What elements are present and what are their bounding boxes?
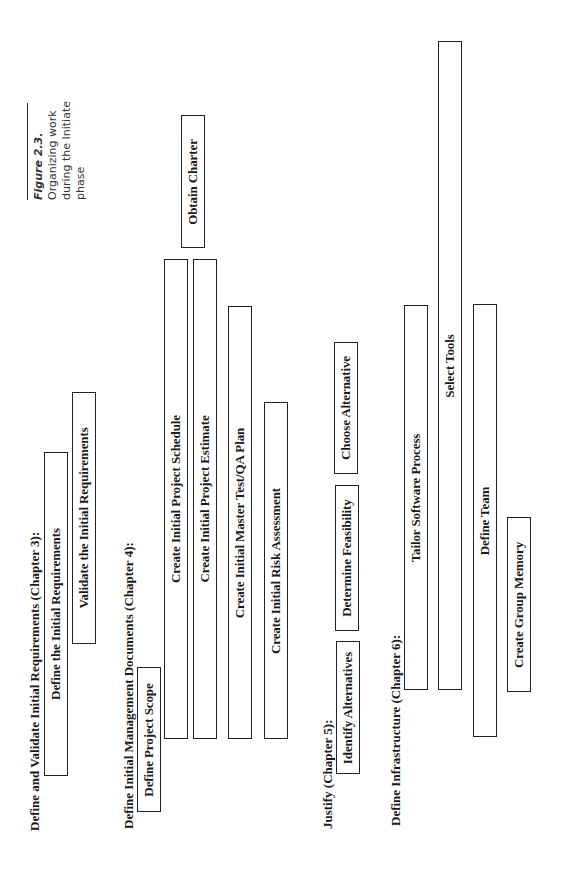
task-label: Define the Initial Requirements <box>48 528 64 700</box>
task-label: Tailor Software Process <box>408 433 424 562</box>
task-label: Create Group Memory <box>511 541 527 667</box>
task-label: Choose Alternative <box>338 356 354 460</box>
task-label: Define Team <box>477 486 493 555</box>
task-identify-alternatives: Identify Alternatives <box>336 641 360 774</box>
task-label: Identify Alternatives <box>340 651 356 763</box>
task-label: Create Initial Risk Assessment <box>268 487 284 653</box>
task-define-initial-requirements: Define the Initial Requirements <box>44 452 68 776</box>
task-choose-alternative: Choose Alternative <box>334 342 358 474</box>
caption-line-1: Organizing work <box>46 110 59 200</box>
task-validate-initial-requirements: Validate the Initial Requirements <box>72 392 96 644</box>
caption-line-2: during the Initiate <box>60 101 73 200</box>
task-label: Validate the Initial Requirements <box>76 427 92 608</box>
task-determine-feasibility: Determine Feasibility <box>335 485 359 631</box>
task-define-team: Define Team <box>473 304 497 737</box>
figure-label: Figure 2.3. <box>32 133 45 200</box>
task-create-initial-project-estimate: Create Initial Project Estimate <box>193 259 217 739</box>
task-create-initial-risk-assessment: Create Initial Risk Assessment <box>264 402 288 739</box>
caption-rule <box>27 103 28 200</box>
caption-line-3: phase <box>74 167 87 200</box>
task-create-initial-master-test-qa-plan: Create Initial Master Test/QA Plan <box>228 306 252 739</box>
task-define-project-scope: Define Project Scope <box>137 667 161 812</box>
task-create-initial-project-schedule: Create Initial Project Schedule <box>164 259 188 739</box>
task-select-tools: Select Tools <box>438 41 462 690</box>
task-create-group-memory: Create Group Memory <box>507 517 531 692</box>
task-label: Create Initial Project Schedule <box>168 415 184 583</box>
task-label: Obtain Charter <box>185 139 201 225</box>
task-obtain-charter: Obtain Charter <box>181 115 205 248</box>
task-label: Select Tools <box>442 334 458 397</box>
group-heading-management-docs: Define Initial Management Documents (Cha… <box>121 542 137 829</box>
group-heading-justify: Justify (Chapter 5): <box>320 719 336 829</box>
task-tailor-software-process: Tailor Software Process <box>404 305 428 690</box>
task-label: Determine Feasibility <box>339 499 355 616</box>
task-label: Define Project Scope <box>141 683 157 796</box>
task-label: Create Initial Project Estimate <box>197 415 213 582</box>
group-heading-requirements: Define and Validate Initial Requirements… <box>27 532 43 831</box>
task-label: Create Initial Master Test/QA Plan <box>232 427 248 617</box>
group-heading-infrastructure: Define Infrastructure (Chapter 6): <box>388 635 404 826</box>
